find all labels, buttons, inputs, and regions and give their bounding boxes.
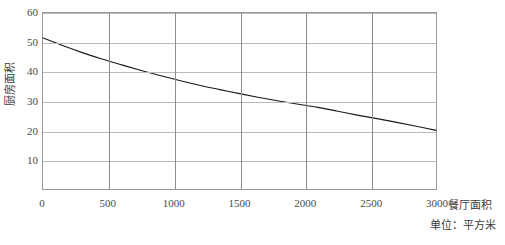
gridline-horizontal <box>43 72 436 73</box>
gridline-horizontal <box>43 13 436 14</box>
gridline-vertical <box>306 13 307 189</box>
gridline-horizontal <box>43 43 436 44</box>
gridline-vertical <box>372 13 373 189</box>
x-axis-title: 餐厅面积 <box>448 199 492 211</box>
data-curve <box>43 13 436 189</box>
y-axis-title: 厨房面积 <box>4 52 16 116</box>
y-axis-tick-label: 10 <box>8 155 38 166</box>
chart-figure: 102030405060 厨房面积 0500100015002000250030… <box>0 0 505 245</box>
curve-path <box>43 38 436 130</box>
x-axis-unit-label: 单位：平方米 <box>430 219 496 231</box>
gridline-vertical <box>109 13 110 189</box>
x-axis-tick-label: 1000 <box>152 198 196 209</box>
gridline-vertical <box>175 13 176 189</box>
x-axis-tick-label: 2000 <box>283 198 327 209</box>
x-axis-tick-label: 0 <box>20 198 64 209</box>
gridline-horizontal <box>43 161 436 162</box>
gridline-horizontal <box>43 102 436 103</box>
y-axis-tick-label: 20 <box>8 126 38 137</box>
plot-area <box>42 12 437 190</box>
x-axis-tick-label: 500 <box>86 198 130 209</box>
y-axis-tick-label: 50 <box>8 37 38 48</box>
x-axis-tick-label: 2500 <box>349 198 393 209</box>
gridline-vertical <box>241 13 242 189</box>
x-axis-tick-label: 1500 <box>218 198 262 209</box>
y-axis-tick-label: 60 <box>8 7 38 18</box>
gridline-horizontal <box>43 132 436 133</box>
x-axis-tick-labels: 050010001500200025003000 <box>42 198 437 212</box>
